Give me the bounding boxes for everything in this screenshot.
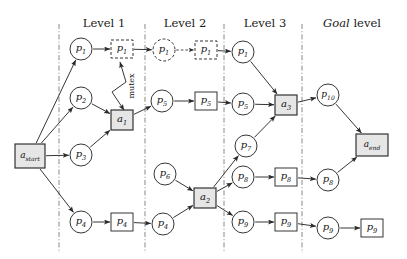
node-p4-l2[interactable]	[152, 213, 174, 235]
node-p1-l2[interactable]	[153, 39, 175, 61]
level-title-level-1: Level 1	[83, 16, 125, 30]
node-a1[interactable]	[111, 110, 133, 130]
node-p5-box-l2[interactable]	[195, 92, 217, 110]
level-title-goal-level: Goal level	[323, 16, 381, 30]
mutex-label: mutex	[127, 73, 136, 98]
node-p1-box-l1[interactable]	[111, 40, 133, 58]
edge-e-a2-p8	[217, 183, 232, 191]
node-p2-l1[interactable]	[70, 87, 92, 109]
edge-e-a3-p10	[298, 98, 316, 102]
edge-e-a2-p9	[217, 206, 233, 216]
node-p6-l2[interactable]	[154, 163, 176, 185]
edge-e-p5box2-p5l3	[218, 102, 231, 103]
node-a-end[interactable]	[356, 134, 388, 156]
mutex-zigzag-arrow	[112, 62, 126, 110]
node-a3[interactable]	[275, 95, 297, 115]
edge-e-start-p2	[41, 107, 73, 143]
node-p7-l3[interactable]	[235, 135, 257, 157]
node-p9-l3[interactable]	[232, 211, 254, 233]
node-p8-l3[interactable]	[232, 166, 254, 188]
node-p9-box-goal[interactable]	[361, 219, 383, 237]
edge-e-p8goal-aend	[338, 157, 357, 172]
edge-e-start-p4	[40, 169, 73, 212]
edge-e-p1l3-a3	[251, 61, 277, 94]
edge-e-p1box2-p1l3	[218, 51, 231, 52]
edge-e-a1-p5	[134, 106, 151, 114]
node-p5-l3[interactable]	[232, 93, 254, 115]
node-p5-l2[interactable]	[151, 90, 173, 112]
edge-e-p9box-p9goal	[298, 224, 316, 227]
level-title-level-2: Level 2	[164, 16, 206, 30]
figure-canvas: Level 1Level 2Level 3Goal level astartp1…	[0, 0, 407, 259]
node-p3-l1[interactable]	[70, 144, 92, 166]
edge-e-p10-aend	[336, 104, 361, 133]
node-p8-goal[interactable]	[317, 169, 339, 191]
node-a-start[interactable]	[15, 144, 45, 168]
level-separators	[59, 24, 302, 253]
node-p4-l1[interactable]	[70, 211, 92, 233]
node-p1-box-l2[interactable]	[195, 41, 217, 59]
edge-e-p8box-p8goal	[298, 178, 316, 179]
node-p1-l3[interactable]	[232, 41, 254, 63]
edge-e-start-p1	[36, 60, 76, 143]
level-title-level-3: Level 3	[244, 16, 286, 30]
edge-e-p2-a1	[92, 104, 110, 114]
edge-e-p6-a2	[175, 180, 193, 191]
edge-e-p7-a3	[255, 116, 276, 137]
node-p10-goal[interactable]	[317, 84, 339, 106]
diagram-svg	[0, 0, 407, 259]
node-p4-box-l1[interactable]	[111, 213, 133, 231]
edge-e-p3-a1	[90, 130, 110, 147]
edge-e-p4box-p4l2	[134, 223, 151, 224]
mutex-link	[112, 62, 126, 110]
node-a2[interactable]	[194, 188, 216, 208]
edge-e-p4l2-a2	[173, 205, 193, 217]
node-p8-box-l3[interactable]	[275, 168, 297, 186]
node-p9-box-l3[interactable]	[275, 213, 297, 231]
node-p9-goal[interactable]	[317, 217, 339, 239]
node-p1-l1[interactable]	[70, 38, 92, 60]
